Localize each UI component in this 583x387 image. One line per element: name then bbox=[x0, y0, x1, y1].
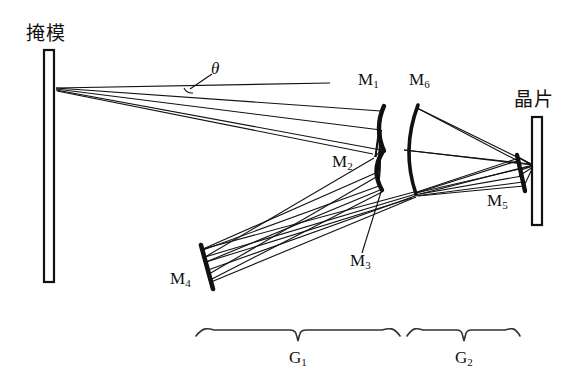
group-g1-letter: G bbox=[289, 348, 301, 367]
theta-label: θ bbox=[211, 60, 219, 77]
mirror-m3-label: M3 bbox=[350, 252, 371, 269]
mirror-m2-subscript: 2 bbox=[347, 160, 353, 172]
mirror-m4-label: M4 bbox=[170, 270, 191, 287]
mirror-m2-letter: M bbox=[332, 152, 347, 171]
mirror-m3-subscript: 3 bbox=[365, 259, 371, 271]
group-g1-label: G1 bbox=[289, 349, 307, 366]
optics-diagram: 掩模 晶片 θ M1 M2 M3 M4 M5 M6 G1 G2 bbox=[0, 0, 583, 387]
wafer-plate bbox=[532, 117, 542, 225]
ray-bundle-m4-to-m6 bbox=[203, 192, 416, 282]
mirror-m6-subscript: 6 bbox=[424, 78, 430, 90]
ray-bundle-mask-to-m1 bbox=[56, 83, 381, 154]
mirror-m6-label: M6 bbox=[409, 71, 430, 88]
mirror-m6-letter: M bbox=[409, 70, 424, 89]
group-g2-subscript: 2 bbox=[467, 356, 473, 368]
mirror-m2-label: M2 bbox=[332, 153, 353, 170]
mask-label: 掩模 bbox=[26, 24, 66, 43]
mask-plate bbox=[44, 50, 54, 282]
mirror-m5-letter: M bbox=[487, 191, 502, 210]
mirror-m5-subscript: 5 bbox=[502, 199, 508, 211]
mirror-m3-letter: M bbox=[350, 251, 365, 270]
group-g1-subscript: 1 bbox=[301, 356, 307, 368]
mirror-m5-label: M5 bbox=[487, 192, 508, 209]
brace-g1 bbox=[196, 329, 400, 341]
mirror-m1-letter: M bbox=[358, 70, 373, 89]
mirror-m1-label: M1 bbox=[358, 71, 379, 88]
ray-bundle-m6-to-wafer bbox=[404, 108, 533, 196]
brace-g2 bbox=[407, 329, 520, 341]
mirror-m4-subscript: 4 bbox=[185, 277, 191, 289]
wafer-label: 晶片 bbox=[514, 90, 554, 109]
mirror-m1-subscript: 1 bbox=[373, 78, 379, 90]
mirror-m6 bbox=[409, 105, 418, 194]
group-g2-letter: G bbox=[455, 348, 467, 367]
mirror-m4-letter: M bbox=[170, 269, 185, 288]
theta-angle-mark bbox=[184, 74, 212, 93]
group-g2-label: G2 bbox=[455, 349, 473, 366]
